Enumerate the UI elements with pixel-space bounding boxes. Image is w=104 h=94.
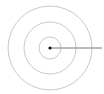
- concentric-circles-diagram: [0, 0, 104, 94]
- center-dot: [48, 46, 51, 49]
